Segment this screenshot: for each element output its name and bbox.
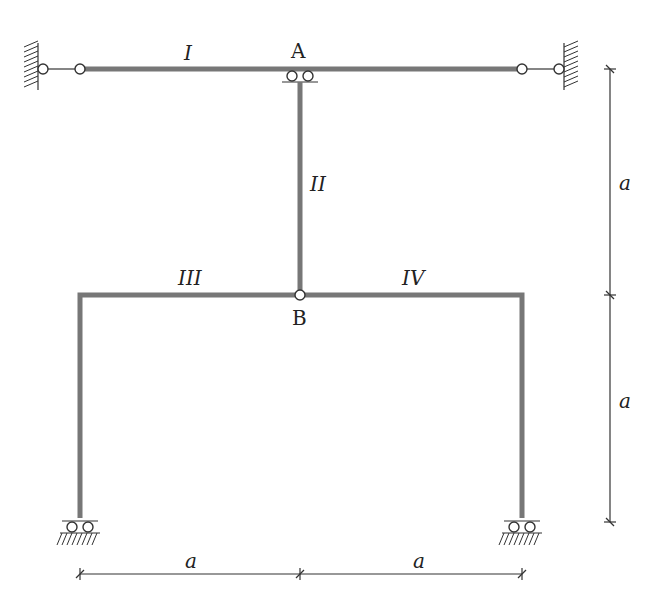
dim-label-bottom-right: a bbox=[413, 549, 425, 573]
left-wall-support bbox=[24, 41, 75, 90]
label-member-III: III bbox=[177, 266, 203, 290]
label-member-I: I bbox=[183, 41, 193, 65]
label-member-II: II bbox=[309, 172, 327, 196]
roller-support-left bbox=[57, 521, 100, 545]
roller-support-right bbox=[499, 521, 542, 545]
dim-label-right-lower: a bbox=[619, 389, 631, 413]
member-IV bbox=[300, 295, 522, 518]
dimension-right bbox=[604, 65, 616, 526]
label-member-IV: IV bbox=[401, 266, 427, 290]
label-node-A: A bbox=[290, 39, 306, 63]
hinge-left bbox=[75, 64, 85, 74]
member-III bbox=[80, 295, 300, 518]
dim-label-right-upper: a bbox=[619, 171, 631, 195]
right-wall-support bbox=[527, 41, 578, 90]
structural-diagram: I A II III IV B a a a a bbox=[0, 0, 658, 609]
hinge-B bbox=[295, 290, 305, 300]
dimension-bottom bbox=[76, 568, 526, 580]
roller-A bbox=[282, 71, 318, 82]
hinge-right bbox=[517, 64, 527, 74]
dim-label-bottom-left: a bbox=[185, 549, 197, 573]
label-node-B: B bbox=[292, 306, 307, 330]
